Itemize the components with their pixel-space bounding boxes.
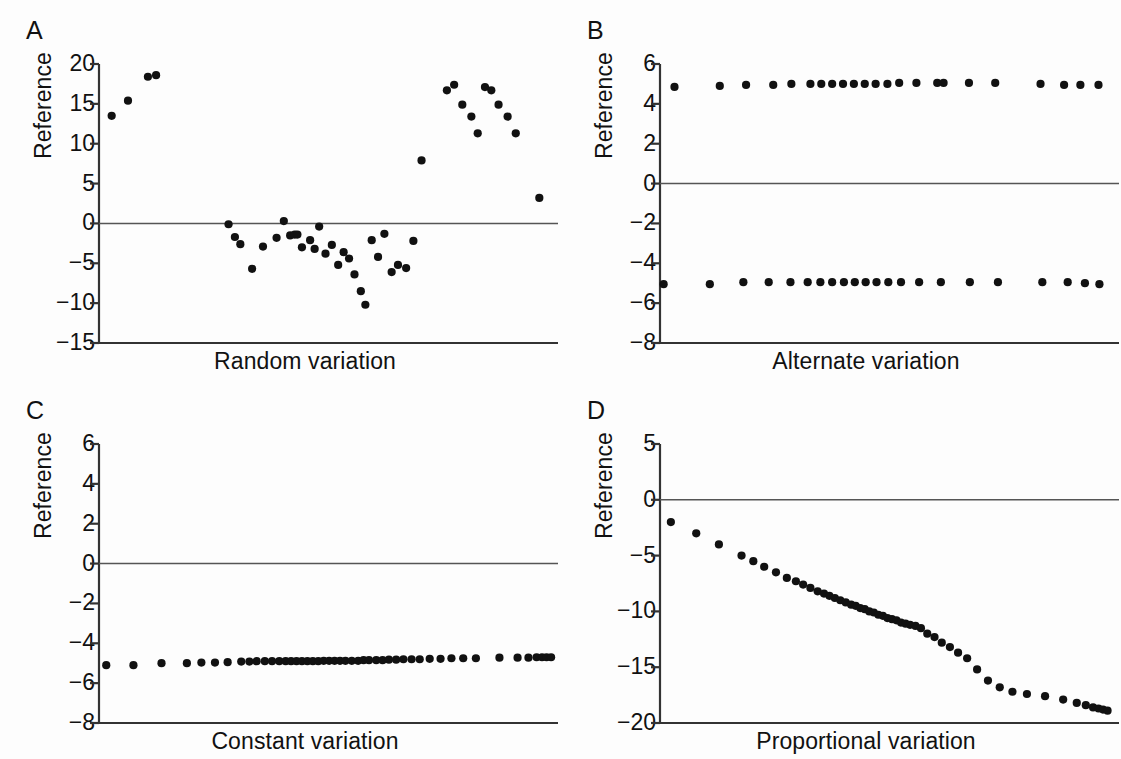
data-point (850, 80, 858, 88)
data-point (152, 71, 160, 79)
data-point (792, 577, 800, 585)
data-point (459, 654, 467, 662)
data-point (828, 80, 836, 88)
data-point (915, 278, 923, 286)
data-point (1073, 699, 1081, 707)
data-point (828, 278, 836, 286)
data-point (253, 657, 261, 665)
data-point (494, 101, 502, 109)
data-point (487, 86, 495, 94)
data-point (839, 80, 847, 88)
data-point (340, 248, 348, 256)
data-point (1103, 707, 1111, 715)
data-point (197, 659, 205, 667)
data-point (298, 243, 306, 251)
panel-c-x-axis-label: Constant variation (95, 728, 515, 755)
data-point (1038, 278, 1046, 286)
data-point (760, 563, 768, 571)
data-point (1082, 701, 1090, 709)
data-point (183, 659, 191, 667)
data-point (443, 86, 451, 94)
data-point (991, 79, 999, 87)
data-point (816, 278, 824, 286)
data-point (786, 278, 794, 286)
data-point (861, 80, 869, 88)
data-point (963, 654, 971, 662)
panel-c-constant-variation: C Reference 6420−2−4−6−8 Constant variat… (0, 380, 560, 759)
data-point (504, 113, 512, 121)
data-series-main (102, 653, 555, 669)
data-point (450, 81, 458, 89)
data-point (293, 230, 301, 238)
data-point (447, 654, 455, 662)
data-point (394, 261, 402, 269)
data-point (996, 683, 1004, 691)
data-point (474, 129, 482, 137)
data-point (259, 242, 267, 250)
panel-b-plot-area (561, 0, 1121, 379)
data-series-lower (660, 278, 1104, 288)
data-series-main (108, 71, 544, 309)
data-point (467, 113, 475, 121)
data-point (472, 654, 480, 662)
data-point (1064, 278, 1072, 286)
data-point (350, 270, 358, 278)
data-point (1059, 695, 1067, 703)
data-point (883, 80, 891, 88)
data-point (806, 584, 814, 592)
data-point (851, 278, 859, 286)
data-point (984, 676, 992, 684)
data-point (211, 659, 219, 667)
data-point (973, 665, 981, 673)
data-point (524, 654, 532, 662)
data-point (268, 657, 276, 665)
data-point (994, 278, 1002, 286)
panel-b-alternate-variation: B Reference 6420−2−4−6−8 Alternate varia… (561, 0, 1121, 379)
panel-d-x-axis-label: Proportional variation (656, 728, 1076, 755)
data-point (236, 240, 244, 248)
data-point (417, 156, 425, 164)
data-point (660, 280, 668, 288)
panel-d-proportional-variation: D Reference 50−5−10−15−20 Proportional v… (561, 380, 1121, 759)
data-point (385, 656, 393, 664)
data-point (315, 223, 323, 231)
data-point (129, 661, 137, 669)
data-point (772, 568, 780, 576)
data-point (923, 630, 931, 638)
data-point (1076, 81, 1084, 89)
data-point (388, 268, 396, 276)
data-point (715, 540, 723, 548)
data-point (144, 73, 152, 81)
data-point (248, 265, 256, 273)
data-point (495, 654, 503, 662)
data-point (1081, 279, 1089, 287)
data-point (224, 220, 232, 228)
data-point (311, 245, 319, 253)
data-point (124, 97, 132, 105)
data-point (416, 655, 424, 663)
data-point (840, 278, 848, 286)
data-point (513, 654, 521, 662)
data-point (966, 278, 974, 286)
data-point (280, 217, 288, 225)
data-point (374, 253, 382, 261)
data-point (328, 241, 336, 249)
data-point (407, 655, 415, 663)
data-point (965, 79, 973, 87)
data-point (1023, 690, 1031, 698)
data-point (361, 301, 369, 309)
data-point (368, 236, 376, 244)
data-point (930, 633, 938, 641)
data-point (749, 557, 757, 565)
data-point (799, 581, 807, 589)
data-point (938, 639, 946, 647)
panel-c-plot-area (0, 380, 560, 759)
data-point (804, 278, 812, 286)
data-point (739, 278, 747, 286)
data-point (108, 112, 116, 120)
data-point (1008, 688, 1016, 696)
data-point (231, 233, 239, 241)
panel-a-x-axis-label: Random variation (95, 348, 515, 375)
data-point (426, 655, 434, 663)
data-point (706, 280, 714, 288)
